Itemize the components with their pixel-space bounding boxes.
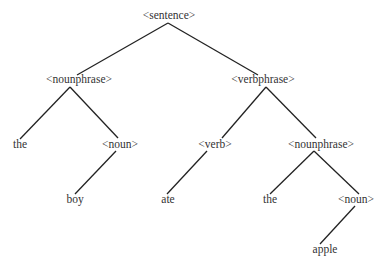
- node-sentence: <sentence>: [143, 9, 196, 21]
- edge-verb-ate: [167, 151, 207, 194]
- edge-nounphrase-noun-2: [314, 151, 359, 194]
- parse-tree-diagram: <sentence> <nounphrase> <verbphrase> the…: [0, 0, 388, 265]
- edge-nounphrase-the-2: [270, 151, 314, 194]
- node-ate: ate: [161, 193, 174, 205]
- edge-verbphrase-nounphrase: [266, 87, 316, 138]
- edge-nounphrase-the: [20, 87, 70, 139]
- node-boy: boy: [66, 193, 83, 205]
- edge-sentence-verbphrase: [168, 23, 258, 75]
- edge-nounphrase-noun: [70, 87, 118, 138]
- node-verbphrase: <verbphrase>: [231, 73, 294, 85]
- node-noun-2: <noun>: [338, 193, 374, 205]
- edge-verbphrase-verb: [222, 87, 266, 138]
- node-the-2: the: [263, 193, 277, 205]
- node-noun: <noun>: [102, 138, 138, 150]
- edge-noun-boy: [75, 151, 116, 194]
- node-nounphrase-2: <nounphrase>: [288, 138, 354, 150]
- tree-edges: [0, 0, 388, 265]
- node-nounphrase: <nounphrase>: [46, 73, 112, 85]
- node-verb: <verb>: [198, 138, 231, 150]
- node-apple: apple: [313, 243, 338, 255]
- edge-sentence-nounphrase: [77, 23, 168, 75]
- node-the: the: [13, 138, 27, 150]
- edge-noun-apple: [320, 206, 355, 244]
